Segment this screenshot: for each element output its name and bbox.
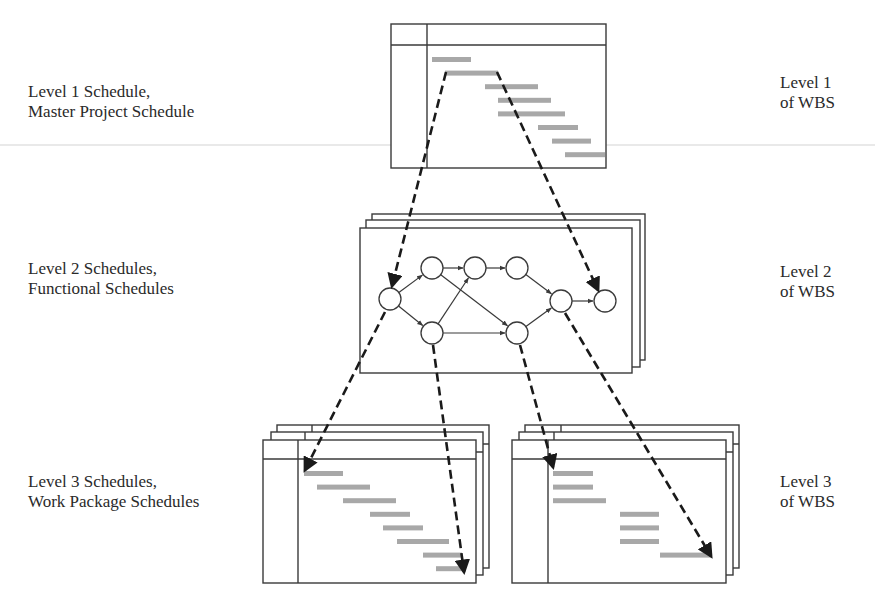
network-node-n1 (379, 288, 401, 310)
level3-left-bar (397, 539, 449, 544)
level3-right-gantt-stack (512, 425, 739, 583)
label-level3-schedules-line1: Level 3 Schedules, (28, 472, 199, 492)
label-level1-schedule-line1: Level 1 Schedule, (28, 82, 194, 102)
level2-network-stack (360, 214, 645, 373)
network-node-n8 (594, 290, 616, 312)
label-level2-schedules-line2: Functional Schedules (28, 279, 174, 299)
label-wbs-level3: Level 3 of WBS (780, 472, 835, 512)
network-node-n3 (464, 257, 486, 279)
level3-left-bar (383, 525, 423, 530)
level1-bar (538, 125, 578, 130)
label-wbs-level2-line1: Level 2 (780, 262, 835, 282)
level3-left-bar (370, 512, 410, 517)
level1-bar (565, 152, 605, 157)
level1-gantt-chart (391, 24, 606, 168)
label-level1-schedule-line2: Master Project Schedule (28, 102, 194, 122)
label-level3-schedules-line2: Work Package Schedules (28, 492, 199, 512)
label-wbs-level2-line2: of WBS (780, 282, 835, 302)
label-wbs-level3-line2: of WBS (780, 492, 835, 512)
level3-left-bar (317, 485, 370, 490)
level3-left-bar (436, 566, 465, 571)
label-wbs-level1-line1: Level 1 (780, 73, 835, 93)
level1-bar (432, 57, 471, 62)
level1-bar (445, 71, 498, 76)
label-level2-schedules: Level 2 Schedules, Functional Schedules (28, 259, 174, 299)
label-level3-schedules: Level 3 Schedules, Work Package Schedule… (28, 472, 199, 512)
level3-right-bar (620, 525, 659, 530)
level3-right-bar (660, 553, 712, 558)
level3-right-bar (553, 485, 593, 490)
level3-left-bar (423, 553, 462, 558)
level1-bar (552, 139, 591, 144)
network-node-n5 (421, 322, 443, 344)
level3-right-bar (553, 498, 606, 503)
label-wbs-level2: Level 2 of WBS (780, 262, 835, 302)
label-level1-schedule: Level 1 Schedule, Master Project Schedul… (28, 82, 194, 122)
network-node-n6 (506, 322, 528, 344)
level3-left-page-front (263, 440, 476, 583)
label-wbs-level3-line1: Level 3 (780, 472, 835, 492)
label-level2-schedules-line1: Level 2 Schedules, (28, 259, 174, 279)
level1-bar (498, 111, 565, 116)
network-node-n4 (506, 257, 528, 279)
level3-right-bar (553, 471, 593, 476)
level1-bar (485, 84, 538, 89)
level3-right-bar (620, 512, 659, 517)
label-wbs-level1-line2: of WBS (780, 93, 835, 113)
level3-right-bar (620, 539, 659, 544)
level3-left-bar (304, 471, 343, 476)
level1-bar (498, 98, 551, 103)
network-node-n7 (550, 290, 572, 312)
label-wbs-level1: Level 1 of WBS (780, 73, 835, 113)
network-node-n2 (421, 257, 443, 279)
level3-right-page-front (512, 440, 726, 583)
level3-left-bar (343, 498, 396, 503)
